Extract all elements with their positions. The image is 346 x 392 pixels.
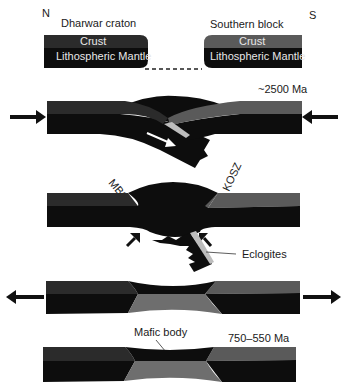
south-label: S (309, 9, 316, 21)
eclogite-slab (152, 231, 214, 272)
stage-2: ~2500 Ma (10, 83, 338, 168)
left-inward-arrow (127, 233, 140, 246)
left-extension-arrow (6, 290, 44, 304)
right-convergence-arrow (302, 110, 338, 124)
southern-mantle-label: Lithospheric Mantle (210, 50, 305, 62)
north-label: N (42, 7, 50, 19)
eclogites-label: Eclogites (242, 248, 287, 260)
dharwar-crust-label: Crust (80, 35, 106, 47)
kosz-label: KOSZ (220, 160, 244, 192)
age-750-550-label: 750–550 Ma (228, 332, 290, 344)
left-convergence-arrow (10, 110, 46, 124)
southern-block: Crust Lithospheric Mantle (204, 35, 305, 68)
dharwar-mantle-label: Lithospheric Mantle (56, 50, 151, 62)
stage5-mafic-zone (124, 361, 222, 382)
right-extension-arrow (303, 290, 341, 304)
age-2500-label: ~2500 Ma (258, 83, 308, 95)
stage-3: MBSZ KOSZ Eclogites (47, 160, 300, 272)
stage-4 (6, 281, 341, 314)
dharwar-craton-label: Dharwar craton (61, 17, 136, 29)
stage-5: Mafic body 750–550 Ma (43, 326, 296, 382)
eclogite-leader-line (206, 252, 236, 254)
southern-crust-label: Crust (239, 35, 265, 47)
southern-block-label: Southern block (210, 18, 284, 30)
tectonic-diagram: N S Dharwar craton Southern block Crust … (0, 0, 346, 392)
stage-1: N S Dharwar craton Southern block Crust … (42, 7, 316, 69)
mafic-body-label: Mafic body (134, 326, 188, 338)
dharwar-block: Crust Lithospheric Mantle (44, 35, 151, 68)
